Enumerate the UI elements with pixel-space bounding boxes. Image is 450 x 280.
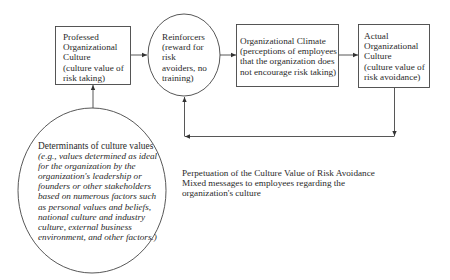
- text-line: Organizational: [63, 42, 124, 52]
- text-line: (perceptions of employees: [240, 46, 337, 56]
- reinforcers-label: Reinforcers (reward for risk avoiders, n…: [162, 32, 207, 83]
- text-line: for the organization by the: [38, 161, 157, 171]
- actual-label: Actual Organizational Culture (culture v…: [364, 31, 425, 82]
- text-line: based on numerous factors such: [38, 191, 157, 201]
- text-line: organization's leadership or: [38, 171, 157, 181]
- text-line: Organizational: [364, 41, 425, 51]
- determinants-label: Determinants of culture values (e.g., va…: [38, 141, 157, 242]
- caption: Perpetuation of the Culture Value of Ris…: [182, 168, 375, 199]
- climate-label: Organizational Climate (perceptions of e…: [240, 36, 337, 77]
- determinants-title: Determinants of culture values: [38, 141, 157, 151]
- text-line: training): [162, 73, 207, 83]
- text-line: (reward for: [162, 42, 207, 52]
- text-line: (culture value of: [364, 62, 425, 72]
- text-line: national culture and industry: [38, 212, 157, 222]
- text-line: culture, external business: [38, 222, 157, 232]
- caption-line: Perpetuation of the Culture Value of Ris…: [182, 168, 375, 178]
- text-line: founders or other stakeholders: [38, 181, 157, 191]
- text-line: avoiders, no: [162, 63, 207, 73]
- text-line: not encourage risk taking): [240, 67, 337, 77]
- text-line: (culture value of: [63, 63, 124, 73]
- caption-line: Mixed messages to employees regarding th…: [182, 178, 375, 188]
- text-line: Culture: [63, 52, 124, 62]
- text-line: risk: [162, 52, 207, 62]
- professed-label: Professed Organizational Culture (cultur…: [63, 32, 124, 83]
- text-line: Organizational Climate: [240, 36, 337, 46]
- caption-line: organization's culture: [182, 188, 375, 198]
- text-line: that the organization does: [240, 56, 337, 66]
- text-line: environment, and other factors.): [38, 232, 157, 242]
- text-line: Professed: [63, 32, 124, 42]
- text-line: Culture: [364, 51, 425, 61]
- text-line: Actual: [364, 31, 425, 41]
- text-line: risk taking): [63, 73, 124, 83]
- text-line: Reinforcers: [162, 32, 207, 42]
- text-line: risk avoidance): [364, 72, 425, 82]
- text-line: (e.g., values determined as ideal: [38, 151, 157, 161]
- text-line: as personal values and beliefs,: [38, 202, 157, 212]
